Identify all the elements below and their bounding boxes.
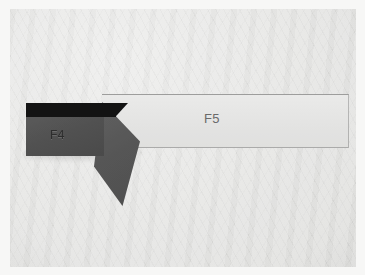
tool-holder-label: F4 bbox=[50, 129, 65, 141]
workpiece-panel: F5 bbox=[102, 94, 349, 148]
workpiece-panel-label: F5 bbox=[204, 112, 220, 125]
tool-holder-body: F4 bbox=[26, 116, 104, 156]
photo-image-area: F5 F4 bbox=[10, 9, 356, 267]
photograph-figure: F5 F4 bbox=[0, 0, 365, 275]
shank-top-layer bbox=[26, 103, 116, 117]
